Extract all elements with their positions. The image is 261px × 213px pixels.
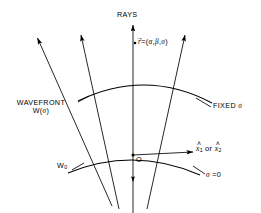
unit-vector-x1: ˄x1	[196, 145, 203, 154]
sigma-zero-equals: =0	[212, 170, 221, 179]
fixed-sigma-label: FIXED σ	[213, 102, 242, 110]
fixed-sigma-wavefront-arc	[78, 85, 212, 103]
vector-overbar-icon: →	[136, 34, 143, 42]
ray-right	[147, 35, 185, 209]
position-vector-origin-dot	[134, 42, 137, 45]
origin-point	[132, 154, 135, 157]
sigma-zero-wavefront-arc	[68, 160, 200, 175]
position-vector-close-paren: )	[165, 37, 168, 46]
hat-icon-2: ˄	[216, 140, 220, 148]
fixed-sigma-symbol: σ	[238, 102, 242, 110]
sigma-zero-label: σ =0	[206, 171, 221, 179]
w-zero-subscript: 0	[64, 164, 67, 170]
wavefront-label: WAVEFRONT W(σ)	[10, 99, 72, 116]
unit-vector-label: ˄x1 or ˄x2	[196, 145, 221, 154]
ray-left	[81, 35, 119, 209]
fixed-sigma-text: FIXED	[213, 101, 238, 110]
position-vector-label: →r=(α,β,σ)	[138, 38, 168, 46]
wavefront-leader-line	[78, 96, 89, 102]
position-vector-symbol: →r	[138, 38, 141, 46]
hat-icon-1: ˄	[197, 140, 201, 148]
rays-label: RAYS	[117, 11, 137, 19]
ray-group	[38, 35, 186, 209]
wavefront-label-line-2: W(σ)	[10, 107, 72, 115]
ray-far-left	[38, 38, 113, 206]
unit-vector-arrow	[133, 152, 193, 155]
unit-vector-x2: ˄x2	[215, 145, 222, 154]
origin-label: O	[136, 156, 142, 164]
unit-vector-sub-1: 1	[200, 147, 203, 153]
w-zero-label: W0	[57, 162, 67, 171]
wavefront-rays-diagram: RAYS →r=(α,β,σ) WAVEFRONT W(σ) FIXED σ ˄…	[0, 0, 261, 213]
unit-vector-sub-2: 2	[218, 147, 221, 153]
